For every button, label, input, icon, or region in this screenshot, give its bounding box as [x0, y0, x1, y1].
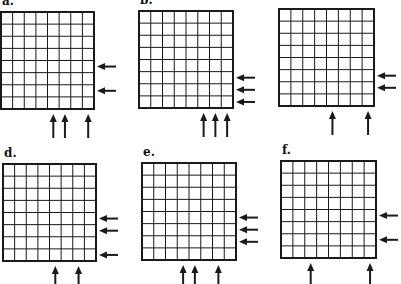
grid-panel	[0, 0, 401, 284]
left-arrow-icon	[379, 236, 398, 243]
up-arrow-icon	[307, 263, 314, 284]
up-arrow-icon	[367, 263, 374, 284]
left-arrow-icon	[379, 212, 398, 219]
